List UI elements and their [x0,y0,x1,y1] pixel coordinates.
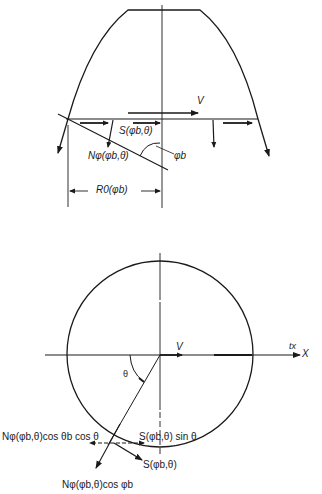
theta-arrowhead [139,378,144,382]
shear-label: S(φb,θ) [143,460,177,470]
normal-horizontal-label: Nφ(φb,θ)cos θb cos θ [2,432,99,442]
normal-arrow-right [213,120,214,147]
radius-label: R0(φb) [96,185,128,195]
bottom-velocity-label: V [176,342,183,352]
top-velocity-label: V [197,96,204,106]
edge-arrow-right [258,119,269,156]
phi-b-pointer [156,146,174,154]
shell-outline [68,10,258,119]
top-shear-label: S(φb,θ) [119,126,153,136]
x-axis-label: X [302,349,309,359]
theta-label: θ [123,370,128,379]
diagram-canvas: V S(φb,θ) Nφ(φb,θ) φb R0(φb) V tx X θ Nφ… [0,0,322,494]
theta-angle-arc [130,355,143,381]
phi-b-label: φb [174,151,186,161]
shell-cross-section [58,5,269,208]
tx-label: tx [289,342,296,351]
normal-arrow-mid [108,120,113,147]
edge-arrow-left [58,119,68,153]
normal-cos-phi-label: Nφ(φb,θ)cos φb [62,480,133,490]
phi-b-angle-arc [140,143,160,156]
shear-tangent-arrow [114,443,142,460]
top-normal-label: Nφ(φb,θ) [88,151,129,161]
shear-sin-label: S(φb,θ) sin θ [139,432,197,442]
diagram-svg [0,0,322,494]
